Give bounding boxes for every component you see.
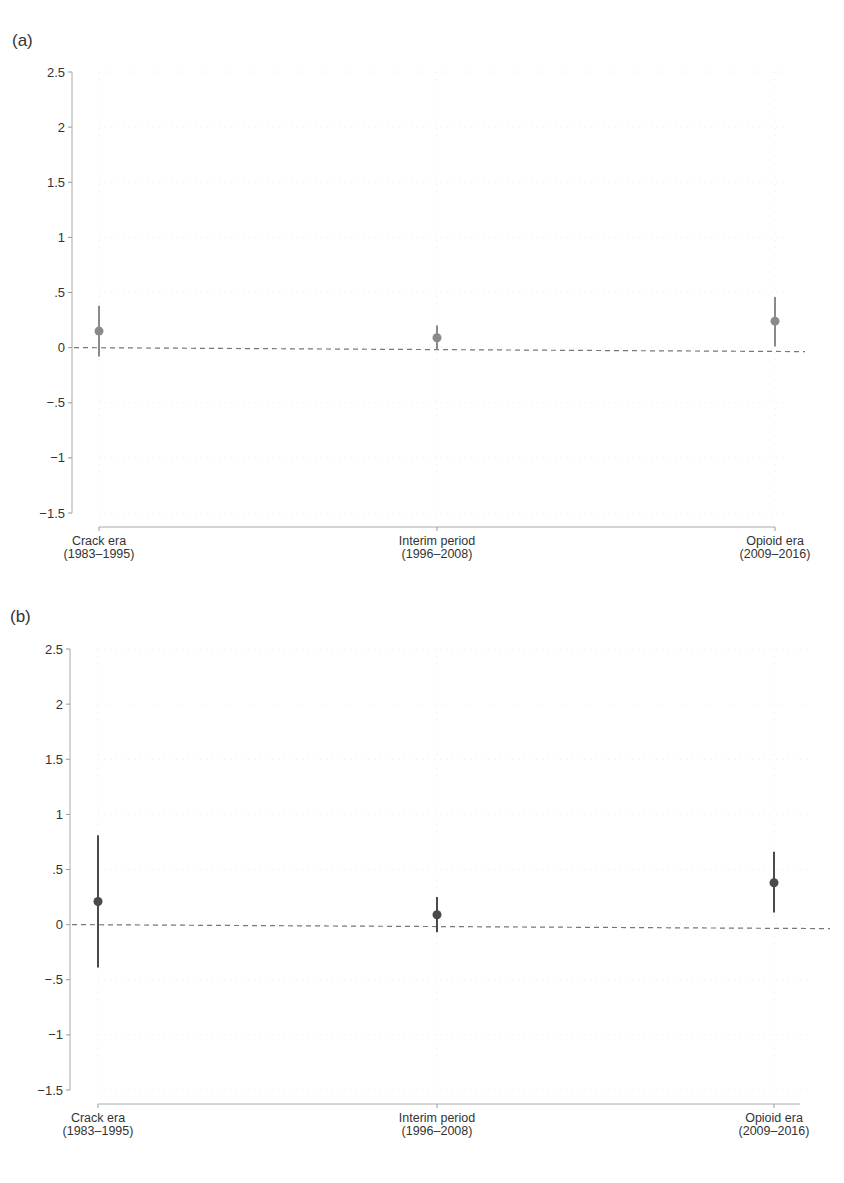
- x-category-label: Interim period: [399, 1111, 475, 1125]
- x-category-label: Opioid era: [746, 534, 804, 548]
- y-tick-label: −.5: [45, 972, 63, 987]
- point-estimate-marker: [433, 333, 442, 342]
- panel-a-chart: (a)2.521.51.50−.5−1−1.5Crack era(1983–19…: [12, 31, 810, 561]
- point-estimate-marker: [771, 317, 780, 326]
- y-tick-label: 2: [58, 120, 65, 135]
- y-tick-label: −.5: [47, 395, 65, 410]
- point-estimate-marker: [94, 897, 103, 906]
- y-tick-label: .5: [54, 285, 65, 300]
- y-tick-label: 0: [56, 917, 63, 932]
- y-tick-label: −1: [50, 450, 65, 465]
- x-category-label: Crack era: [72, 534, 126, 548]
- x-category-label: (1983–1995): [63, 1124, 134, 1138]
- zero-reference-line: [72, 925, 830, 929]
- x-category-label: Crack era: [71, 1111, 125, 1125]
- y-tick-label: 1: [56, 807, 63, 822]
- x-category-label: (1983–1995): [64, 547, 135, 561]
- figure: (a)2.521.51.50−.5−1−1.5Crack era(1983–19…: [0, 0, 844, 1183]
- x-category-label: Interim period: [399, 534, 475, 548]
- y-tick-label: .5: [52, 862, 63, 877]
- x-category-label: (2009–2016): [739, 1124, 810, 1138]
- x-category-label: (2009–2016): [740, 547, 811, 561]
- y-tick-label: 2.5: [47, 65, 65, 80]
- panel-b-chart: (b)2.521.51.50−.5−1−1.5Crack era(1983–19…: [10, 607, 830, 1138]
- panel-label: (a): [12, 31, 33, 50]
- y-tick-label: 1.5: [45, 752, 63, 767]
- y-tick-label: −1: [48, 1027, 63, 1042]
- zero-reference-line: [74, 348, 805, 352]
- point-estimate-marker: [770, 878, 779, 887]
- x-category-label: (1996–2008): [402, 1124, 473, 1138]
- x-category-label: Opioid era: [745, 1111, 803, 1125]
- point-estimate-marker: [433, 910, 442, 919]
- y-tick-label: 1.5: [47, 175, 65, 190]
- y-tick-label: −1.5: [37, 1083, 63, 1098]
- y-tick-label: −1.5: [39, 506, 65, 521]
- y-tick-label: 2: [56, 697, 63, 712]
- panel-label: (b): [10, 607, 31, 626]
- x-category-label: (1996–2008): [402, 547, 473, 561]
- y-tick-label: 0: [58, 340, 65, 355]
- y-tick-label: 1: [58, 230, 65, 245]
- point-estimate-marker: [95, 327, 104, 336]
- y-tick-label: 2.5: [45, 642, 63, 657]
